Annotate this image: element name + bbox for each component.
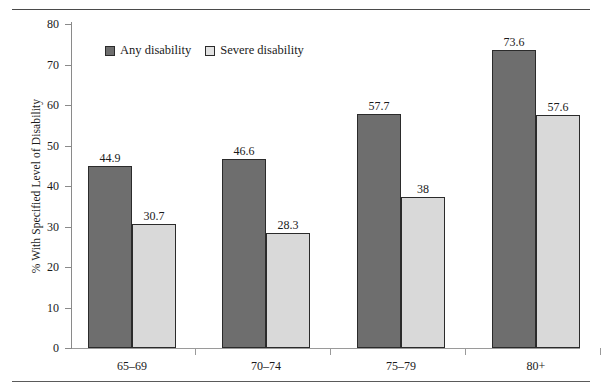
bar-severe-disability[interactable]: 38 xyxy=(401,197,445,348)
y-axis-tick xyxy=(65,105,72,106)
bar-any-disability[interactable]: 73.6 xyxy=(492,50,536,348)
y-axis-tick-label: 50 xyxy=(19,140,59,152)
bar-value-label: 57.7 xyxy=(369,100,390,112)
bar-value-label: 38 xyxy=(417,183,429,195)
bar-value-label: 73.6 xyxy=(504,36,525,48)
y-axis-tick-label: 10 xyxy=(19,302,59,314)
y-axis-tick-label: 80 xyxy=(19,18,59,30)
x-axis-tick xyxy=(465,348,466,355)
y-axis-tick-label: 70 xyxy=(19,59,59,71)
y-axis-tick xyxy=(65,146,72,147)
y-axis-tick-label: 60 xyxy=(19,99,59,111)
bar-group: 73.657.6 xyxy=(492,24,580,348)
y-axis-tick xyxy=(65,24,72,25)
y-axis-tick xyxy=(65,227,72,228)
x-axis-category-label: 75–79 xyxy=(341,360,461,372)
y-axis-tick-label: 40 xyxy=(19,180,59,192)
bar-value-label: 44.9 xyxy=(100,152,121,164)
y-axis-tick xyxy=(65,308,72,309)
bar-value-label: 28.3 xyxy=(278,219,299,231)
y-axis-tick xyxy=(65,267,72,268)
bar-group: 57.738 xyxy=(357,24,445,348)
bar-group: 46.628.3 xyxy=(222,24,310,348)
x-axis-tick xyxy=(330,348,331,355)
bar-severe-disability[interactable]: 30.7 xyxy=(132,224,176,348)
bar-severe-disability[interactable]: 28.3 xyxy=(266,233,310,348)
x-axis-category-label: 80+ xyxy=(476,360,596,372)
top-divider-rule xyxy=(12,9,590,10)
x-axis-category-label: 65–69 xyxy=(72,360,192,372)
bar-value-label: 46.6 xyxy=(234,145,255,157)
bar-severe-disability[interactable]: 57.6 xyxy=(536,115,580,348)
y-axis-tick-label: 20 xyxy=(19,261,59,273)
y-axis-tick xyxy=(65,348,72,349)
bar-any-disability[interactable]: 46.6 xyxy=(222,159,266,348)
x-axis-tick xyxy=(195,348,196,355)
y-axis-tick-label: 0 xyxy=(19,342,59,354)
x-axis-category-label: 70–74 xyxy=(206,360,326,372)
bar-any-disability[interactable]: 44.9 xyxy=(88,166,132,348)
bar-any-disability[interactable]: 57.7 xyxy=(357,114,401,348)
y-axis-tick xyxy=(65,65,72,66)
plot-area: 44.930.746.628.357.73873.657.6 xyxy=(72,24,580,348)
x-axis-line xyxy=(72,348,580,349)
bar-value-label: 57.6 xyxy=(548,101,569,113)
bottom-divider-rule xyxy=(12,381,590,382)
y-axis-tick-label: 30 xyxy=(19,221,59,233)
y-axis-tick xyxy=(65,186,72,187)
bar-value-label: 30.7 xyxy=(144,210,165,222)
bar-group: 44.930.7 xyxy=(88,24,176,348)
